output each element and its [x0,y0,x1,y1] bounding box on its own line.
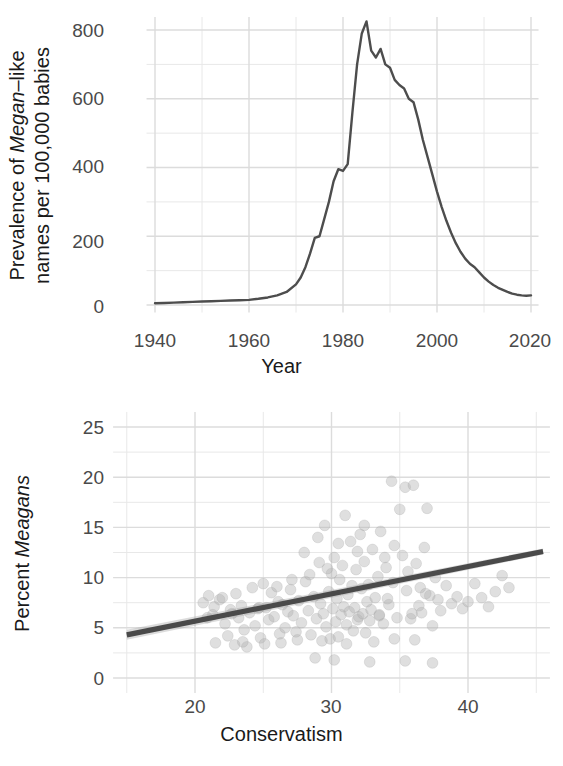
panel-prevalence-line-chart: Prevalence of Megan–like names per 100,0… [0,0,563,383]
x-axis-label-year: Year [0,355,563,378]
x-tick-label-1980: 1980 [309,330,377,352]
x-tick-label-1940: 1940 [121,330,189,352]
panel-conservatism-scatter-chart: Percent Meagans 25 20 15 10 5 0 20 30 40… [0,383,563,766]
figure-container: Prevalence of Megan–like names per 100,0… [0,0,563,766]
x-tick-label-20: 20 [161,696,229,718]
x-tick-label-2020: 2020 [496,330,563,352]
x-tick-label-1960: 1960 [215,330,283,352]
x-tick-label-40: 40 [434,696,502,718]
x-axis-label-conservatism: Conservatism [0,723,563,746]
x-tick-label-30: 30 [297,696,365,718]
line-chart-plot-area [0,0,563,383]
x-tick-label-2000: 2000 [403,330,471,352]
